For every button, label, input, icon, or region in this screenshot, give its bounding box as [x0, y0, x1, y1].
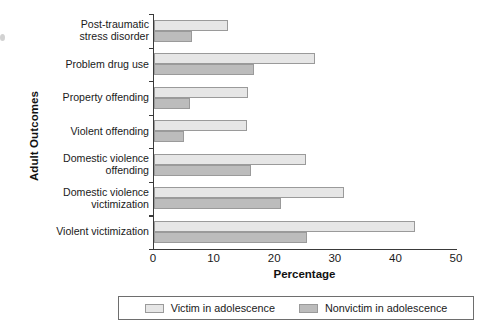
plot-area — [153, 14, 456, 249]
bar-nonvictim — [154, 198, 281, 209]
y-axis-category-label: Violent offending — [36, 126, 149, 138]
y-axis-category-label: Violent victimization — [36, 226, 149, 238]
y-axis-category-label: Domestic violencevictimization — [36, 187, 149, 210]
bar-nonvictim — [154, 131, 184, 142]
y-axis-category-label: Post-traumaticstress disorder — [36, 19, 149, 42]
y-axis-tick-labels: Post-traumaticstress disorderProblem dru… — [36, 14, 149, 249]
y-axis-label-line: offending — [36, 165, 149, 177]
y-axis-label-line: Problem drug use — [36, 59, 149, 71]
y-axis-label-line: Domestic violence — [36, 187, 149, 199]
y-axis-category-label: Problem drug use — [36, 59, 149, 71]
y-axis-label-line: Violent victimization — [36, 226, 149, 238]
x-axis-tick-label: 40 — [375, 252, 415, 264]
bar-victim — [154, 120, 247, 131]
bar-nonvictim — [154, 31, 192, 42]
legend-swatch-nonvictim — [299, 304, 318, 313]
y-axis-tick — [149, 14, 154, 15]
bar-victim — [154, 154, 306, 165]
x-axis-tick-label: 30 — [315, 252, 355, 264]
bar-victim — [154, 221, 415, 232]
scan-artifact — [0, 34, 5, 41]
x-axis-tick-label: 50 — [436, 252, 476, 264]
bar-nonvictim — [154, 98, 190, 109]
bar-nonvictim — [154, 64, 254, 75]
bar-victim — [154, 187, 344, 198]
bar-nonvictim — [154, 232, 307, 243]
x-axis-tick-label: 10 — [194, 252, 234, 264]
y-axis-tick — [149, 249, 154, 250]
legend-label: Nonvictim in adolescence — [325, 302, 447, 314]
bar-victim — [154, 87, 248, 98]
y-axis-tick — [149, 115, 154, 116]
y-axis-tick — [149, 148, 154, 149]
bar-victim — [154, 20, 228, 31]
legend-swatch-victim — [145, 304, 164, 313]
x-axis-tick-label: 0 — [133, 252, 173, 264]
y-axis-tick — [149, 215, 154, 216]
bar-victim — [154, 53, 315, 64]
x-axis-title: Percentage — [153, 268, 456, 280]
y-axis-tick — [149, 81, 154, 82]
legend-entry: Nonvictim in adolescence — [299, 302, 447, 314]
chart-legend: Victim in adolescenceNonvictim in adoles… — [118, 296, 474, 320]
x-axis-tick-labels: 01020304050 — [153, 252, 463, 268]
y-axis-label-line: stress disorder — [36, 31, 149, 43]
y-axis-label-line: victimization — [36, 199, 149, 211]
bar-nonvictim — [154, 165, 251, 176]
legend-entry: Victim in adolescence — [145, 302, 275, 314]
x-axis-tick-label: 20 — [254, 252, 294, 264]
x-axis-line — [153, 249, 457, 250]
y-axis-category-label: Property offending — [36, 92, 149, 104]
y-axis-label-line: Property offending — [36, 92, 149, 104]
legend-label: Victim in adolescence — [171, 302, 275, 314]
y-axis-tick — [149, 182, 154, 183]
bar-chart-figure: Adult Outcomes Post-traumaticstress diso… — [0, 0, 490, 329]
y-axis-category-label: Domestic violenceoffending — [36, 153, 149, 176]
y-axis-label-line: Violent offending — [36, 126, 149, 138]
y-axis-tick — [149, 48, 154, 49]
